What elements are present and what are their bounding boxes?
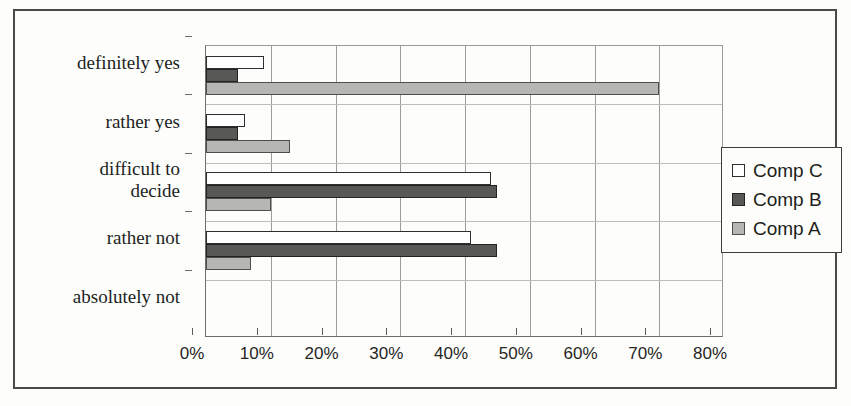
y-axis-tick bbox=[185, 153, 192, 154]
bar-group-definitely-yes bbox=[206, 46, 722, 104]
category-label-rather-yes: rather yes bbox=[15, 111, 180, 133]
x-axis-tick-label-20%: 20% bbox=[287, 344, 357, 364]
x-axis-tick-label-70%: 70% bbox=[610, 344, 680, 364]
legend-item-Comp-A[interactable]: Comp A bbox=[732, 214, 835, 243]
bar-Comp-A-definitely-yes bbox=[206, 82, 659, 95]
bar-Comp-B-rather-not bbox=[206, 244, 497, 257]
x-axis-tick-mark bbox=[322, 328, 323, 335]
chart-frame: definitely yesrather yesdifficult todeci… bbox=[13, 9, 837, 389]
x-axis-tick-mark bbox=[516, 328, 517, 335]
x-axis-tick-mark bbox=[192, 328, 193, 335]
chart-screenshot: definitely yesrather yesdifficult todeci… bbox=[0, 0, 851, 406]
bar-Comp-B-difficult-to-decide bbox=[206, 185, 497, 198]
category-label-definitely-yes: definitely yes bbox=[15, 52, 180, 74]
x-axis-tick-label-0%: 0% bbox=[157, 344, 227, 364]
category-label-line: definitely yes bbox=[15, 52, 180, 74]
series-c-swatch-icon bbox=[732, 164, 745, 177]
x-axis-tick-mark bbox=[451, 328, 452, 335]
x-axis-tick-label-30%: 30% bbox=[351, 344, 421, 364]
x-axis-tick-label-80%: 80% bbox=[675, 344, 745, 364]
x-axis-tick-label-60%: 60% bbox=[546, 344, 616, 364]
bar-Comp-A-difficult-to-decide bbox=[206, 198, 271, 211]
bar-group-rather-not bbox=[206, 221, 722, 279]
bar-Comp-C-rather-not bbox=[206, 231, 471, 244]
plot-area bbox=[205, 45, 723, 337]
x-axis-tick-mark bbox=[386, 328, 387, 335]
bar-Comp-B-definitely-yes bbox=[206, 69, 238, 82]
category-label-line: rather yes bbox=[15, 111, 180, 133]
bar-Comp-C-difficult-to-decide bbox=[206, 172, 491, 185]
y-axis-tick bbox=[185, 94, 192, 95]
bar-Comp-C-rather-yes bbox=[206, 114, 245, 127]
category-label-line: rather not bbox=[15, 227, 180, 249]
category-label-rather-not: rather not bbox=[15, 227, 180, 249]
legend-label: Comp C bbox=[753, 160, 823, 182]
bar-Comp-A-rather-not bbox=[206, 257, 251, 270]
x-axis-tick-label-50%: 50% bbox=[481, 344, 551, 364]
y-axis-tick bbox=[185, 211, 192, 212]
bar-Comp-A-rather-yes bbox=[206, 140, 290, 153]
y-axis-tick bbox=[185, 36, 192, 37]
bar-group-difficult-to-decide bbox=[206, 163, 722, 221]
series-a-swatch-icon bbox=[732, 222, 745, 235]
legend-label: Comp A bbox=[753, 218, 821, 240]
category-label-line: difficult to bbox=[15, 158, 180, 180]
legend-item-Comp-B[interactable]: Comp B bbox=[732, 185, 835, 214]
bar-group-rather-yes bbox=[206, 104, 722, 162]
x-axis-tick-label-10%: 10% bbox=[222, 344, 292, 364]
x-axis-tick-mark bbox=[710, 328, 711, 335]
legend-item-Comp-C[interactable]: Comp C bbox=[732, 156, 835, 185]
bar-Comp-C-definitely-yes bbox=[206, 56, 264, 69]
x-axis-tick-label-40%: 40% bbox=[416, 344, 486, 364]
x-axis-tick-mark bbox=[257, 328, 258, 335]
bar-Comp-B-rather-yes bbox=[206, 127, 238, 140]
series-b-swatch-icon bbox=[732, 193, 745, 206]
category-label-line: decide bbox=[15, 180, 180, 202]
category-label-line: absolutely not bbox=[15, 286, 180, 308]
y-axis-tick bbox=[185, 270, 192, 271]
legend-label: Comp B bbox=[753, 189, 822, 211]
x-axis-tick-mark bbox=[645, 328, 646, 335]
category-label-absolutely-not: absolutely not bbox=[15, 286, 180, 308]
category-label-difficult-to-decide: difficult todecide bbox=[15, 158, 180, 203]
x-axis-tick-mark bbox=[581, 328, 582, 335]
chart-legend: Comp CComp BComp A bbox=[721, 147, 842, 253]
